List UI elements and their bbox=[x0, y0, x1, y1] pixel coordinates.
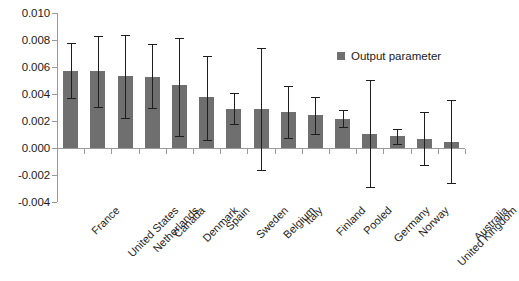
x-tick-mark bbox=[111, 149, 112, 154]
y-tick-label: 0.008 bbox=[22, 34, 50, 46]
y-tick-label: 0.004 bbox=[22, 88, 50, 100]
y-tick-mark bbox=[52, 202, 57, 203]
legend: Output parameter bbox=[337, 50, 441, 62]
error-bar-stem bbox=[261, 48, 262, 170]
error-bar-stem bbox=[343, 110, 344, 127]
error-bar-cap-lower bbox=[257, 170, 266, 171]
error-bar-stem bbox=[370, 80, 371, 187]
y-tick-mark bbox=[52, 67, 57, 68]
y-tick-mark bbox=[52, 40, 57, 41]
error-bar-cap-lower bbox=[284, 138, 293, 139]
x-tick-mark bbox=[329, 149, 330, 154]
x-axis-category-labels: FranceUnited StatesNetherlandsCanadaDenm… bbox=[57, 204, 465, 281]
error-bar-cap-upper bbox=[67, 43, 76, 44]
error-bar-stem bbox=[71, 43, 72, 98]
error-bar-cap-lower bbox=[121, 118, 130, 119]
y-tick-label: 0.000 bbox=[22, 142, 50, 154]
error-bar-cap-upper bbox=[311, 97, 320, 98]
error-bar-cap-lower bbox=[94, 107, 103, 108]
error-bar-stem bbox=[125, 35, 126, 117]
plot-area: 0.0100.0080.0060.0040.0020.000-0.002-0.0… bbox=[57, 13, 465, 202]
x-tick-mark bbox=[247, 149, 248, 154]
error-bar-cap-upper bbox=[94, 36, 103, 37]
error-bar-cap-upper bbox=[420, 112, 429, 113]
x-tick-mark bbox=[84, 149, 85, 154]
y-tick-mark bbox=[52, 13, 57, 14]
error-bar-stem bbox=[234, 93, 235, 124]
x-tick-mark bbox=[220, 149, 221, 154]
x-tick-mark bbox=[166, 149, 167, 154]
error-bar-cap-upper bbox=[203, 56, 212, 57]
error-bar-cap-lower bbox=[148, 108, 157, 109]
y-axis-line bbox=[57, 13, 58, 202]
x-category-label: United Kingdom bbox=[455, 204, 519, 268]
x-tick-mark bbox=[193, 149, 194, 154]
legend-swatch-output-parameter bbox=[337, 52, 345, 60]
error-bar-stem bbox=[152, 44, 153, 108]
y-tick-label: 0.006 bbox=[22, 61, 50, 73]
error-bar-cap-lower bbox=[311, 134, 320, 135]
x-tick-mark bbox=[383, 149, 384, 154]
x-tick-mark bbox=[57, 149, 58, 154]
y-tick-label: 0.002 bbox=[22, 115, 50, 127]
error-bar-cap-upper bbox=[175, 38, 184, 39]
y-tick-mark bbox=[52, 175, 57, 176]
error-bar-stem bbox=[288, 86, 289, 139]
error-bar-cap-upper bbox=[366, 80, 375, 81]
error-bar-stem bbox=[397, 129, 398, 144]
legend-label-output-parameter: Output parameter bbox=[351, 50, 441, 62]
error-bar-cap-upper bbox=[447, 100, 456, 101]
error-bar-stem bbox=[424, 112, 425, 165]
x-category-label: France bbox=[89, 204, 122, 237]
error-bar-cap-lower bbox=[339, 127, 348, 128]
error-bar-cap-lower bbox=[175, 136, 184, 137]
error-bar-cap-lower bbox=[420, 165, 429, 166]
error-bar-cap-lower bbox=[447, 183, 456, 184]
error-bar-cap-upper bbox=[121, 35, 130, 36]
x-tick-mark bbox=[275, 149, 276, 154]
error-bar-stem bbox=[98, 36, 99, 107]
x-category-label: Pooled bbox=[361, 204, 394, 237]
error-bar-cap-lower bbox=[393, 144, 402, 145]
error-bar-cap-lower bbox=[203, 140, 212, 141]
error-bar-cap-lower bbox=[230, 124, 239, 125]
y-tick-label: -0.004 bbox=[18, 196, 50, 208]
error-bar-cap-upper bbox=[339, 110, 348, 111]
x-tick-mark bbox=[302, 149, 303, 154]
x-tick-mark bbox=[356, 149, 357, 154]
error-bar-stem bbox=[451, 100, 452, 183]
y-tick-mark bbox=[52, 94, 57, 95]
y-tick-mark bbox=[52, 121, 57, 122]
error-bar-cap-upper bbox=[257, 48, 266, 49]
error-bar-cap-upper bbox=[230, 93, 239, 94]
x-tick-mark bbox=[139, 149, 140, 154]
error-bar-stem bbox=[315, 97, 316, 134]
x-category-label: Finland bbox=[334, 204, 368, 238]
error-bar-cap-upper bbox=[393, 129, 402, 130]
y-tick-label: 0.010 bbox=[22, 7, 50, 19]
x-tick-mark bbox=[465, 149, 466, 154]
error-bar-cap-upper bbox=[148, 44, 157, 45]
error-bar-cap-lower bbox=[366, 187, 375, 188]
y-tick-label: -0.002 bbox=[18, 169, 50, 181]
error-bar-cap-lower bbox=[67, 98, 76, 99]
error-bar-stem bbox=[207, 56, 208, 140]
error-bar-cap-upper bbox=[284, 86, 293, 87]
x-tick-mark bbox=[411, 149, 412, 154]
error-bar-stem bbox=[179, 38, 180, 135]
x-tick-mark bbox=[438, 149, 439, 154]
